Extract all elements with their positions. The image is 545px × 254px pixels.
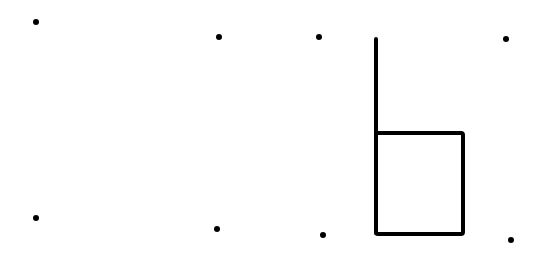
dot-3 xyxy=(503,36,509,42)
dot-5 xyxy=(214,226,220,232)
dot-1 xyxy=(216,34,222,40)
dot-0 xyxy=(33,19,39,25)
dot-6 xyxy=(320,232,326,238)
dot-4 xyxy=(33,215,39,221)
dot-2 xyxy=(316,34,322,40)
dot-grid-drawing xyxy=(0,0,545,254)
square-box xyxy=(376,133,463,234)
dot-7 xyxy=(508,237,514,243)
